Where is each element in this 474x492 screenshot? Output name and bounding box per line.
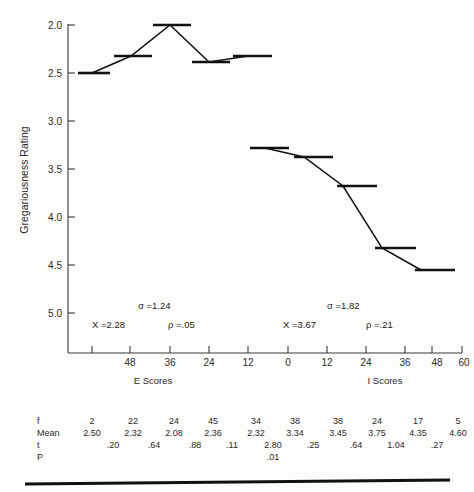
cell-t-7: .64 — [350, 440, 363, 450]
cell-f-7: 24 — [372, 416, 382, 426]
bottom-rule — [25, 480, 450, 484]
y-axis-title: Gregariousness Rating — [18, 126, 30, 234]
annotation-mean-right: X =3.67 — [283, 319, 316, 330]
x-tick-label-9: 60 — [458, 357, 470, 368]
cell-mean-3: 2.36 — [204, 428, 222, 438]
cell-f-1: 22 — [128, 416, 138, 426]
y-axis-ticks — [68, 25, 75, 313]
cell-f-2: 24 — [169, 416, 179, 426]
cell-f-0: 2 — [89, 416, 94, 426]
y-tick-label-4: 4.0 — [48, 212, 62, 223]
y-tick-label-2: 3.0 — [48, 116, 62, 127]
cell-mean-9: 4.60 — [449, 428, 467, 438]
annotation-mean-left: X =2.28 — [92, 319, 125, 330]
x-tick-label-6: 24 — [360, 357, 372, 368]
cell-t-2: .64 — [148, 440, 161, 450]
cell-f-8: 17 — [413, 416, 423, 426]
gregariousness-rating-chart: 2.0 2.5 3.0 3.5 4.0 4.5 5.0 Gregariousne… — [0, 0, 474, 492]
x-tick-label-8: 48 — [431, 357, 443, 368]
table-row-label-mean: Mean — [37, 428, 60, 438]
y-tick-label-1: 2.5 — [48, 68, 62, 79]
cell-p-5: .01 — [267, 452, 280, 462]
cell-t-4: .11 — [226, 440, 238, 450]
x-tick-label-2: 24 — [203, 357, 215, 368]
cell-t-3: .88 — [189, 440, 202, 450]
figure-container: 2.0 2.5 3.0 3.5 4.0 4.5 5.0 Gregariousne… — [0, 0, 474, 492]
chart-axes — [68, 24, 462, 353]
group-label-i-scores: I Scores — [368, 375, 403, 386]
y-tick-label-6: 5.0 — [48, 308, 62, 319]
table-row: .01 — [267, 452, 280, 462]
x-tick-label-1: 36 — [164, 357, 176, 368]
cell-mean-0: 2.50 — [83, 428, 101, 438]
cell-f-9: 5 — [455, 416, 460, 426]
y-axis-tick-labels: 2.0 2.5 3.0 3.5 4.0 4.5 5.0 — [48, 20, 62, 319]
chart-annotations: σ =1.24 X =2.28 ρ =.05 σ =1.82 X =3.67 ρ… — [92, 300, 393, 330]
cell-t-8: 1.04 — [387, 440, 405, 450]
cell-f-4: 34 — [251, 416, 261, 426]
group-label-e-scores: E Scores — [134, 375, 173, 386]
table-row-label-t: t — [37, 440, 40, 450]
x-axis-ticks — [92, 346, 462, 353]
cell-t-1: .20 — [107, 440, 120, 450]
series-e-scores — [78, 25, 272, 73]
i-scores-connector-line — [265, 148, 421, 270]
y-tick-label-5: 4.5 — [48, 260, 62, 271]
cell-t-6: .25 — [307, 440, 320, 450]
table-row: .20 .64 .88 .11 2.80 .25 .64 1.04 .27 — [107, 440, 444, 450]
x-tick-label-5: 12 — [321, 357, 333, 368]
annotation-sigma-left: σ =1.24 — [138, 300, 171, 311]
series-i-scores — [250, 148, 455, 270]
x-tick-label-0: 48 — [124, 357, 136, 368]
table-row-label-p: P — [37, 452, 43, 462]
cell-mean-4: 2.32 — [247, 428, 265, 438]
annotation-rho-left: ρ =.05 — [168, 319, 195, 330]
x-tick-label-3: 12 — [242, 357, 254, 368]
e-scores-connector-line — [92, 25, 248, 73]
table-row: 2.50 2.32 2.08 2.36 2.32 3.34 3.45 3.75 … — [83, 428, 467, 438]
table-row: 2 22 24 45 34 38 38 24 17 5 — [89, 416, 460, 426]
cell-mean-8: 4.35 — [409, 428, 427, 438]
y-tick-label-0: 2.0 — [48, 20, 62, 31]
statistics-table: f Mean t P 2 22 24 45 34 38 38 24 17 5 2… — [37, 416, 467, 462]
y-tick-label-3: 3.5 — [48, 164, 62, 175]
cell-mean-1: 2.32 — [124, 428, 142, 438]
cell-mean-5: 3.34 — [286, 428, 304, 438]
cell-mean-6: 3.45 — [329, 428, 347, 438]
cell-t-9: .27 — [431, 440, 444, 450]
annotation-sigma-right: σ =1.82 — [327, 300, 360, 311]
cell-t-5: 2.80 — [264, 440, 282, 450]
cell-mean-7: 3.75 — [368, 428, 386, 438]
cell-f-6: 38 — [333, 416, 343, 426]
x-tick-label-4: 0 — [285, 357, 291, 368]
cell-mean-2: 2.08 — [165, 428, 183, 438]
cell-f-3: 45 — [208, 416, 218, 426]
cell-f-5: 38 — [290, 416, 300, 426]
table-row-label-f: f — [37, 416, 40, 426]
x-axis-tick-labels: 48 36 24 12 0 12 24 36 48 60 — [124, 357, 470, 368]
annotation-rho-right: ρ =.21 — [366, 319, 393, 330]
x-tick-label-7: 36 — [399, 357, 411, 368]
